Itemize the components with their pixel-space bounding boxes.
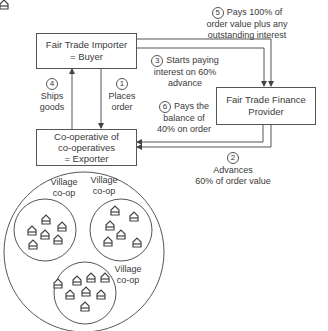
village-2-label: Village co-op xyxy=(86,175,122,197)
step-1-label: 1 Places order xyxy=(104,78,140,113)
step-6-number: 6 xyxy=(159,101,171,113)
step-6-label: 6Pays the balance of 40% on order xyxy=(148,101,220,135)
step-3-label: 3Starts paying interest on 60% advance xyxy=(140,55,230,89)
step-2-label: 2 Advances 60% of order value xyxy=(178,152,288,187)
finance-provider-node: Fair Trade Finance Provider xyxy=(216,87,316,125)
importer-node: Fair Trade Importer = Buyer xyxy=(36,33,137,69)
village-3-label: Village co-op xyxy=(110,264,146,286)
houses xyxy=(0,0,8,9)
importer-title: Fair Trade Importer xyxy=(46,39,127,51)
step-1-number: 1 xyxy=(116,78,128,90)
coop-subtitle: co-operatives xyxy=(54,142,119,153)
step-2-number: 2 xyxy=(227,152,239,164)
coop-title: Co-operative of xyxy=(54,131,119,142)
coop-role: = Exporter xyxy=(54,153,119,164)
importer-subtitle: = Buyer xyxy=(46,51,127,63)
coop-exporter-node: Co-operative of co-operatives = Exporter xyxy=(36,129,137,166)
village-1-label: Village co-op xyxy=(46,177,82,199)
step-3-number: 3 xyxy=(151,55,163,67)
step-5-label: 5Pays 100% of order value plus any outst… xyxy=(172,7,322,41)
step-4-label: 4 Ships goods xyxy=(36,78,68,113)
finance-title: Fair Trade Finance xyxy=(226,94,306,106)
finance-subtitle: Provider xyxy=(226,106,306,118)
step-4-number: 4 xyxy=(46,78,58,90)
step-5-number: 5 xyxy=(212,7,224,19)
